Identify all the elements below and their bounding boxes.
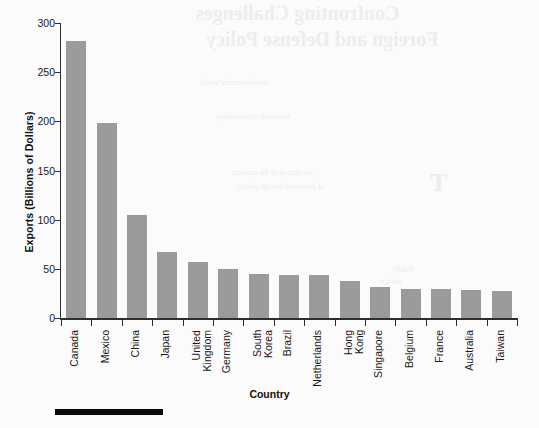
y-tick-mark-50 <box>55 269 60 270</box>
bar-south-korea <box>249 274 269 318</box>
x-tick-label-mexico: Mexico <box>100 330 111 363</box>
y-tick-label-50: 50 <box>21 263 55 275</box>
bar-germany <box>218 269 238 318</box>
y-tick-label-300: 300 <box>21 17 55 29</box>
bar-hong-kong <box>340 281 360 318</box>
bar-brazil <box>279 275 299 318</box>
x-tick-mark-12 <box>426 320 427 326</box>
bar-belgium <box>401 289 421 319</box>
bar-singapore <box>370 287 390 318</box>
y-tick-mark-300 <box>55 23 60 24</box>
x-tick-mark-4 <box>183 320 184 326</box>
x-tick-mark-10 <box>365 320 366 326</box>
y-tick-mark-250 <box>55 72 60 73</box>
bar-china <box>127 215 147 318</box>
footer-rule <box>55 409 163 415</box>
x-tick-label-germany: Germany <box>221 330 232 373</box>
x-tick-mark-9 <box>335 320 336 326</box>
x-axis-label: Country <box>0 388 539 400</box>
x-tick-mark-1 <box>91 320 92 326</box>
x-tick-mark-13 <box>456 320 457 326</box>
x-tick-label-australia: Australia <box>464 330 475 371</box>
x-tick-label-france: France <box>434 330 445 363</box>
y-tick-label-200: 200 <box>21 115 55 127</box>
x-tick-label-netherlands: Netherlands <box>312 330 323 387</box>
x-tick-label-canada: Canada <box>69 330 80 367</box>
x-tick-label-brazil: Brazil <box>282 330 293 356</box>
x-tick-label-belgium: Belgium <box>404 330 415 368</box>
y-tick-label-0: 0 <box>21 312 55 324</box>
x-tick-label-taiwan: Taiwan <box>495 330 506 363</box>
y-tick-mark-200 <box>55 121 60 122</box>
bar-united-kingdom <box>188 262 208 318</box>
x-tick-mark-7 <box>274 320 275 326</box>
bar-france <box>431 289 451 318</box>
x-tick-mark-8 <box>304 320 305 326</box>
y-tick-label-100: 100 <box>21 214 55 226</box>
bar-japan <box>157 252 177 318</box>
bar-mexico <box>97 123 117 318</box>
bar-australia <box>461 290 481 318</box>
y-tick-label-150: 150 <box>21 165 55 177</box>
x-axis-line <box>60 318 518 320</box>
bar-taiwan <box>492 291 512 318</box>
x-tick-mark-14 <box>487 320 488 326</box>
y-axis-tick-labels: 050100150200250300 <box>21 0 55 428</box>
y-tick-label-250: 250 <box>21 66 55 78</box>
y-tick-mark-0 <box>55 318 60 319</box>
x-tick-mark-5 <box>213 320 214 326</box>
exports-bar-chart: Exports (Billions of Dollars) 0501001502… <box>0 0 539 428</box>
x-tick-label-japan: Japan <box>160 330 171 359</box>
x-tick-mark-0 <box>61 320 62 326</box>
x-tick-label-singapore: Singapore <box>373 330 384 378</box>
y-tick-mark-150 <box>55 171 60 172</box>
x-tick-mark-11 <box>395 320 396 326</box>
x-tick-label-south-korea: South Korea <box>252 330 275 358</box>
x-tick-label-china: China <box>130 330 141 357</box>
bar-netherlands <box>309 275 329 318</box>
x-tick-label-united-kingdom: United Kingdom <box>191 330 214 371</box>
bar-canada <box>66 41 86 318</box>
x-tick-mark-6 <box>243 320 244 326</box>
y-tick-mark-100 <box>55 220 60 221</box>
x-tick-mark-2 <box>122 320 123 326</box>
x-tick-mark-3 <box>152 320 153 326</box>
x-tick-mark-end <box>517 320 518 326</box>
x-tick-label-hong-kong: Hong Kong <box>343 330 366 355</box>
plot-area <box>61 23 517 318</box>
